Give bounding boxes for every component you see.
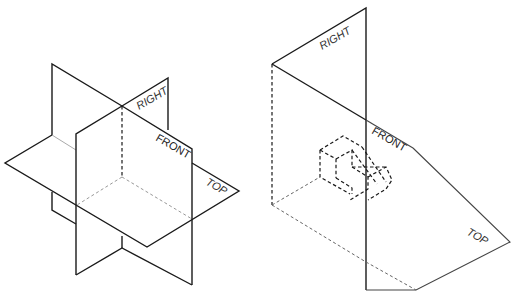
object-top-edge [320, 136, 362, 150]
right-top-plane-hidden-front-edge [272, 205, 366, 262]
object-right-block [368, 167, 392, 200]
object-step-base [336, 178, 352, 194]
left-top-plane [5, 135, 239, 247]
right-label-right: RIGHT [317, 24, 354, 52]
left-right-plane-lower-stub [52, 192, 76, 224]
right-top-plane-hidden-back-edge [272, 177, 320, 205]
right-top-plane-outline [366, 148, 510, 290]
object-step-top [336, 150, 352, 167]
right-front-plane-top-edge [272, 64, 366, 120]
left-front-plane-left-edge [76, 106, 122, 275]
diagram-canvas: RIGHT FRONT TOP RIGHT FRONT [0, 0, 512, 295]
left-label-top: TOP [204, 175, 230, 197]
left-front-plane-bottom-edge [76, 248, 192, 285]
left-top-hidden-line-a [77, 177, 122, 205]
left-front-plane-right-edge [122, 106, 192, 285]
right-figure: RIGHT FRONT TOP [272, 8, 510, 290]
left-right-plane [52, 64, 168, 224]
left-right-plane-hidden-base [52, 135, 76, 150]
right-label-top: TOP [465, 225, 491, 247]
left-top-hidden-line-b [122, 177, 192, 219]
object-front-left-block [320, 150, 336, 178]
object-left-face [320, 150, 350, 194]
right-top-plane-hidden-front-edge-b [366, 262, 416, 290]
left-figure: RIGHT FRONT TOP [5, 64, 239, 285]
left-top-plane-outline [5, 135, 239, 247]
left-right-plane-back-edge [52, 64, 122, 135]
right-right-plane-outline [272, 8, 366, 290]
object-hidden [320, 136, 392, 200]
right-label-front: FRONT [370, 124, 409, 153]
left-front-plane [76, 106, 192, 285]
left-label-front: FRONT [154, 131, 193, 160]
